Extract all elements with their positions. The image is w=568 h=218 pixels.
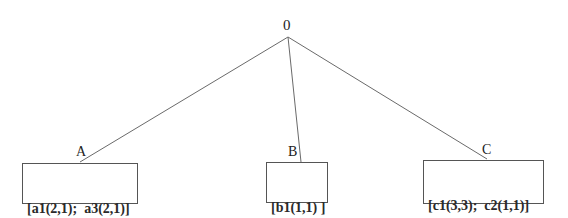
node-c-items: [c1(3,3); c2(1,1)] <box>428 197 539 214</box>
edge-label-c: C <box>482 143 491 157</box>
node-box-c: [c1(3,3); c2(1,1)] 123456; 78 <box>423 160 544 204</box>
edge-root-c <box>288 37 487 159</box>
edge-root-a <box>80 37 288 162</box>
node-b-items: [b1(1,1) ] <box>271 199 323 216</box>
edge-label-a: A <box>76 145 86 159</box>
node-a-items: [a1(2,1); a3(2,1)] <box>27 200 133 217</box>
node-box-a: [a1(2,1); a3(2,1)] 127 ; 456 <box>22 163 138 204</box>
tree-diagram: 0 A B C [a1(2,1); a3(2,1)] 127 ; 456 [b1… <box>0 0 568 218</box>
node-box-b: [b1(1,1) ] 15 <box>266 162 328 203</box>
edge-label-b: B <box>288 145 297 159</box>
root-node-label: 0 <box>283 18 291 32</box>
